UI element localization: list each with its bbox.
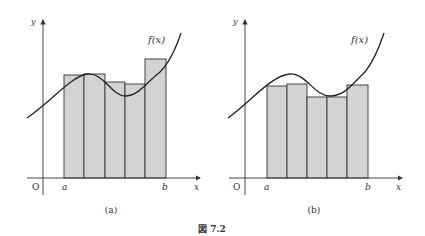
panel-a: f(x) y x O a b (a) — [27, 17, 200, 215]
a-label: a — [62, 182, 67, 192]
y-axis-label: y — [232, 17, 238, 26]
bar — [307, 97, 327, 178]
b-label: b — [162, 182, 168, 192]
panel-sublabel: (b) — [308, 205, 321, 215]
bar — [105, 82, 125, 178]
bar — [125, 84, 145, 178]
b-label: b — [365, 182, 371, 192]
bar — [287, 84, 307, 178]
bar — [347, 85, 368, 178]
figure-canvas: f(x) y x O a b (a) f(x) y x O a b (b) 図 … — [0, 0, 425, 236]
bar — [64, 75, 84, 178]
panel-sublabel: (a) — [105, 205, 117, 215]
bar — [327, 97, 347, 178]
x-axis-label: x — [194, 182, 199, 192]
origin-label: O — [233, 182, 240, 192]
function-label: f(x) — [147, 34, 165, 45]
bar — [84, 74, 105, 178]
panel-b: f(x) y x O a b (b) — [228, 17, 402, 215]
origin-label: O — [32, 182, 39, 192]
bar — [267, 86, 287, 178]
bars-b — [267, 84, 368, 178]
y-axis-label: y — [30, 17, 36, 26]
figure-caption: 図 7.2 — [198, 224, 226, 234]
bar — [145, 59, 166, 178]
x-axis-label: x — [396, 182, 401, 192]
a-label: a — [264, 182, 269, 192]
function-label: f(x) — [350, 34, 368, 45]
